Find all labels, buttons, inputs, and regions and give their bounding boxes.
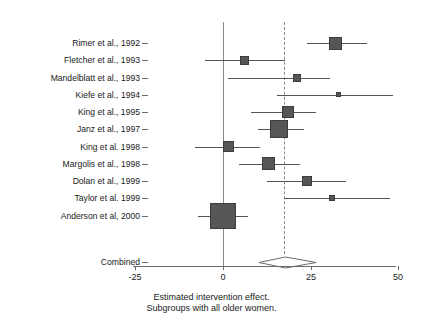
study-axis-tick (142, 43, 148, 44)
study-row: King et al. 1998 (0, 147, 140, 148)
x-tick-label-0: 0 (203, 272, 243, 282)
study-row: Janz et al., 1997 (0, 129, 140, 130)
study-label: Taylor et al. 1999 (75, 194, 140, 203)
study-label: Dolan et al., 1999 (73, 177, 140, 186)
combined-label-wrap: Combined (0, 262, 140, 263)
forest-plot: Rimer et al., 1992Fletcher et al., 1993M… (0, 0, 423, 332)
x-tick-label-25: 25 (291, 272, 331, 282)
x-axis-sublabel: Subgroups with all older women. (0, 303, 423, 314)
study-axis-tick (142, 95, 148, 96)
effect-marker (336, 92, 341, 97)
x-axis-line (133, 266, 396, 267)
effect-marker (282, 106, 294, 118)
study-axis-tick (142, 78, 148, 79)
study-row: Mandelblatt et al., 1993 (0, 78, 140, 79)
study-axis-tick (142, 198, 148, 199)
study-label: Fletcher et al., 1993 (64, 56, 140, 65)
effect-marker (240, 56, 249, 65)
effect-marker (210, 203, 236, 229)
confidence-interval-line (284, 198, 389, 199)
study-axis-tick (142, 129, 148, 130)
study-label: Anderson et al, 2000 (61, 212, 140, 221)
x-tick-25 (311, 266, 312, 270)
x-tick-label--25: -25 (115, 272, 155, 282)
confidence-interval-line (277, 95, 393, 96)
effect-marker (329, 37, 342, 50)
x-tick-50 (398, 266, 399, 270)
x-axis-label: Estimated intervention effect. (0, 292, 423, 303)
study-label: King et al., 1995 (78, 108, 140, 117)
study-row: Rimer et al., 1992 (0, 43, 140, 44)
study-row: Margolis et al., 1998 (0, 164, 140, 165)
study-row: King et al., 1995 (0, 112, 140, 113)
effect-marker (270, 120, 288, 138)
study-label: Janz et al., 1997 (77, 125, 140, 134)
confidence-interval-line (228, 78, 330, 79)
study-row: Taylor et al. 1999 (0, 198, 140, 199)
effect-marker (302, 176, 312, 186)
effect-marker (262, 157, 275, 170)
study-axis-tick (142, 60, 148, 61)
study-row: Kiefe et al., 1994 (0, 95, 140, 96)
study-label: Rimer et al., 1992 (72, 39, 140, 48)
study-label: Mandelblatt et al., 1993 (51, 74, 140, 83)
x-tick-label-50: 50 (378, 272, 418, 282)
study-label: King et al. 1998 (80, 143, 140, 152)
x-tick-0 (223, 266, 224, 270)
combined-axis-tick (142, 262, 148, 263)
study-axis-tick (142, 181, 148, 182)
study-axis-tick (142, 147, 148, 148)
x-tick--25 (135, 266, 136, 270)
effect-marker (293, 74, 301, 82)
study-row: Anderson et al, 2000 (0, 216, 140, 217)
study-label: Margolis et al., 1998 (63, 160, 140, 169)
study-label: Kiefe et al., 1994 (76, 91, 141, 100)
study-axis-tick (142, 216, 148, 217)
effect-marker (223, 141, 234, 152)
study-row: Dolan et al., 1999 (0, 181, 140, 182)
effect-marker (329, 195, 335, 201)
study-axis-tick (142, 164, 148, 165)
study-axis-tick (142, 112, 148, 113)
study-row: Fletcher et al., 1993 (0, 60, 140, 61)
